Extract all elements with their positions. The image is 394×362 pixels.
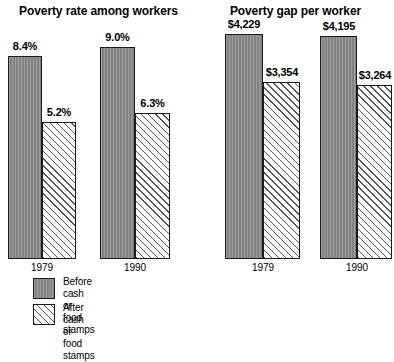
bar-label-right-1979-after: $3,354 [252, 66, 312, 78]
chart-poverty-gap: Poverty gap per worker $4,229 $3,354 197… [197, 0, 394, 336]
legend-swatch-after-icon [33, 304, 55, 325]
axis-label-left-1979: 1979 [19, 262, 65, 273]
bar-left-1990-after [135, 113, 170, 259]
bar-label-right-1990-after: $3,264 [345, 69, 394, 81]
legend-swatch-before-icon [33, 278, 55, 299]
bar-right-1979-after [263, 82, 300, 259]
bar-left-1979-before [8, 56, 42, 259]
bar-right-1990-after [357, 85, 392, 259]
plot-area-right: $4,229 $3,354 1979 $4,195 $3,264 1990 [197, 0, 394, 336]
bar-label-left-1979-before: 8.4% [2, 40, 48, 52]
bar-label-left-1990-after: 6.3% [129, 97, 176, 109]
bar-label-left-1979-after: 5.2% [36, 106, 82, 118]
bar-label-right-1979-before: $4,229 [214, 18, 274, 30]
legend-label-after: After cash or food stamps [63, 302, 95, 362]
axis-label-left-1990: 1990 [112, 262, 158, 273]
axis-label-right-1990: 1990 [334, 262, 380, 273]
bar-left-1979-after [42, 122, 76, 259]
bar-left-1990-before [100, 47, 135, 259]
chart-legend: Before cash or food stamps After cash or… [33, 278, 213, 330]
bar-label-left-1990-before: 9.0% [94, 31, 141, 43]
bar-label-right-1990-before: $4,195 [309, 20, 369, 32]
axis-label-right-1979: 1979 [240, 262, 286, 273]
